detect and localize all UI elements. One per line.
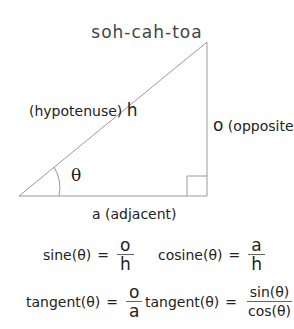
angle-theta: θ (71, 165, 81, 185)
right-triangle (0, 0, 294, 329)
right-angle-marker (187, 176, 207, 196)
hypotenuse-label: (hypotenuse) h (29, 100, 138, 120)
adjacent-label: a (adjacent) (92, 206, 177, 222)
hypotenuse-symbol: h (127, 100, 138, 120)
formula-cosine: cosine(θ) = a h (158, 236, 265, 273)
formula-tangent-sincos: tangent(θ) = sin(θ) cos(θ) (145, 283, 294, 320)
opposite-label: o (opposite) (213, 115, 294, 135)
opposite-text: (opposite) (228, 118, 294, 134)
formula-sine: sine(θ) = o h (43, 236, 134, 273)
opposite-symbol: o (213, 115, 223, 135)
hypotenuse-text: (hypotenuse) (29, 103, 122, 119)
formula-tangent-ratio: tangent(θ) = o a (26, 283, 142, 320)
angle-arc (54, 167, 60, 196)
